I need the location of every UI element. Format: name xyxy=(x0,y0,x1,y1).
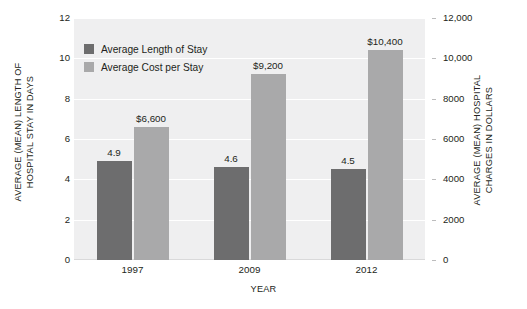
right-tick-mark xyxy=(432,139,436,140)
legend-label: Average Length of Stay xyxy=(101,44,207,55)
right-tick-label: 2000 xyxy=(443,214,464,225)
left-axis-title: AVERAGE (MEAN) LENGTH OF HOSPITAL STAY I… xyxy=(12,32,36,232)
left-tick-label: 2 xyxy=(65,214,70,225)
bar-value-label-days: 4.5 xyxy=(308,155,388,166)
right-axis-ticks: 0200040006000800010,00012,000 xyxy=(432,18,482,260)
bar-length-of-stay xyxy=(97,161,132,260)
right-tick-label: 6000 xyxy=(443,133,464,144)
left-tick-label: 10 xyxy=(59,52,70,63)
right-tick-label: 4000 xyxy=(443,173,464,184)
legend-swatch-icon xyxy=(84,62,94,72)
legend-label: Average Cost per Stay xyxy=(101,62,203,73)
left-tick-label: 4 xyxy=(65,173,70,184)
right-tick-mark xyxy=(432,260,436,261)
legend-item[interactable]: Average Cost per Stay xyxy=(84,59,207,75)
gridline xyxy=(74,18,425,19)
bar-length-of-stay xyxy=(331,169,366,260)
category-label: 2012 xyxy=(307,264,427,275)
chart-figure: AVERAGE (MEAN) LENGTH OF HOSPITAL STAY I… xyxy=(0,0,527,309)
bar-length-of-stay xyxy=(214,167,249,260)
bar-value-label-cost: $9,200 xyxy=(228,60,308,71)
left-tick-label: 6 xyxy=(65,133,70,144)
left-axis-ticks: 024681012 xyxy=(44,18,70,260)
right-tick-mark xyxy=(432,18,436,19)
right-tick-mark xyxy=(432,179,436,180)
right-tick-label: 10,000 xyxy=(443,52,472,63)
chart-legend: Average Length of StayAverage Cost per S… xyxy=(84,41,207,77)
bar-cost-per-stay xyxy=(251,74,286,260)
bar-value-label-cost: $10,400 xyxy=(345,36,425,47)
right-tick-label: 0 xyxy=(443,254,448,265)
left-tick-label: 12 xyxy=(59,12,70,23)
bar-value-label-cost: $6,600 xyxy=(111,113,191,124)
legend-swatch-icon xyxy=(84,44,94,54)
category-label: 2009 xyxy=(190,264,310,275)
right-tick-mark xyxy=(432,220,436,221)
right-tick-mark xyxy=(432,99,436,100)
category-label: 1997 xyxy=(73,264,193,275)
bar-value-label-days: 4.9 xyxy=(74,147,154,158)
legend-item[interactable]: Average Length of Stay xyxy=(84,41,207,57)
right-tick-label: 12,000 xyxy=(443,12,472,23)
left-tick-label: 0 xyxy=(65,254,70,265)
bar-value-label-days: 4.6 xyxy=(191,153,271,164)
right-tick-label: 8000 xyxy=(443,93,464,104)
left-tick-label: 8 xyxy=(65,93,70,104)
right-tick-mark xyxy=(432,58,436,59)
x-axis-title: YEAR xyxy=(0,283,527,295)
